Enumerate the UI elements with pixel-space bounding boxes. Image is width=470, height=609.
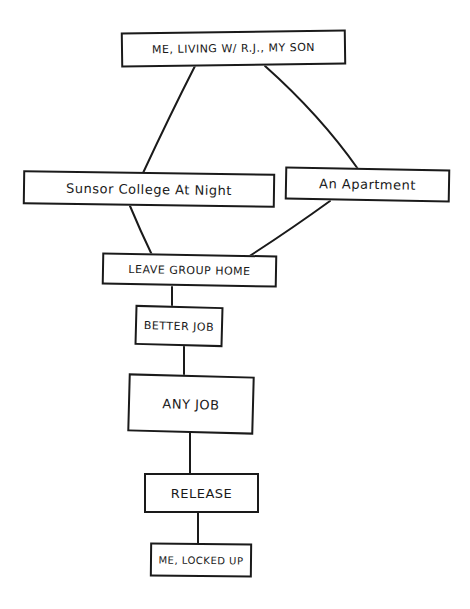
node-label: RELEASE (171, 486, 233, 501)
node-label: BETTER JOB (144, 319, 215, 334)
edge-apt-leave (245, 201, 330, 259)
node-label: LEAVE GROUP HOME (128, 262, 250, 277)
node-label: An Apartment (319, 176, 416, 193)
node-label: Sunsor College At Night (66, 180, 232, 197)
connector-lines (0, 0, 470, 609)
node-college-at-night: Sunsor College At Night (23, 170, 275, 208)
node-label: ME, LIVING W/ R.J., MY SON (152, 41, 315, 56)
node-living-with-son: ME, LIVING W/ R.J., MY SON (121, 29, 346, 67)
node-leave-group-home: LEAVE GROUP HOME (102, 252, 278, 287)
edge-top-sunsor (143, 66, 195, 173)
node-apartment: An Apartment (285, 167, 451, 203)
node-label: ANY JOB (162, 396, 220, 412)
node-better-job: BETTER JOB (134, 305, 223, 347)
node-release: RELEASE (144, 473, 259, 513)
node-any-job: ANY JOB (127, 373, 254, 434)
node-locked-up: ME, LOCKED UP (150, 542, 252, 577)
edge-sunsor-leave (130, 206, 152, 255)
edge-top-apt (265, 66, 358, 169)
flowchart-canvas: ME, LIVING W/ R.J., MY SON Sunsor Colleg… (0, 0, 470, 609)
node-label: ME, LOCKED UP (158, 554, 243, 566)
